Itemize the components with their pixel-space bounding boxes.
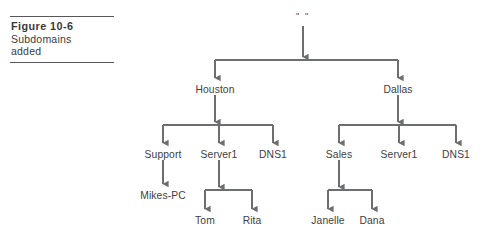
node-support: Support xyxy=(145,149,182,160)
node-rita: Rita xyxy=(243,215,262,226)
node-dallas-dns1: DNS1 xyxy=(442,149,470,160)
node-dallas: Dallas xyxy=(383,84,412,95)
node-houston-dns1: DNS1 xyxy=(259,149,287,160)
node-houston-server1: Server1 xyxy=(201,149,238,160)
dns-hierarchy-diagram: " " Houston Dallas Support Server1 DNS1 … xyxy=(0,0,489,242)
node-root: " " xyxy=(296,11,310,22)
tree-edge-layer xyxy=(0,0,489,242)
node-sales: Sales xyxy=(326,149,352,160)
node-tom: Tom xyxy=(195,215,215,226)
node-dallas-server1: Server1 xyxy=(381,149,418,160)
node-janelle: Janelle xyxy=(311,215,344,226)
node-mikes-pc: Mikes-PC xyxy=(140,190,185,201)
node-dana: Dana xyxy=(359,215,384,226)
node-houston: Houston xyxy=(195,84,234,95)
